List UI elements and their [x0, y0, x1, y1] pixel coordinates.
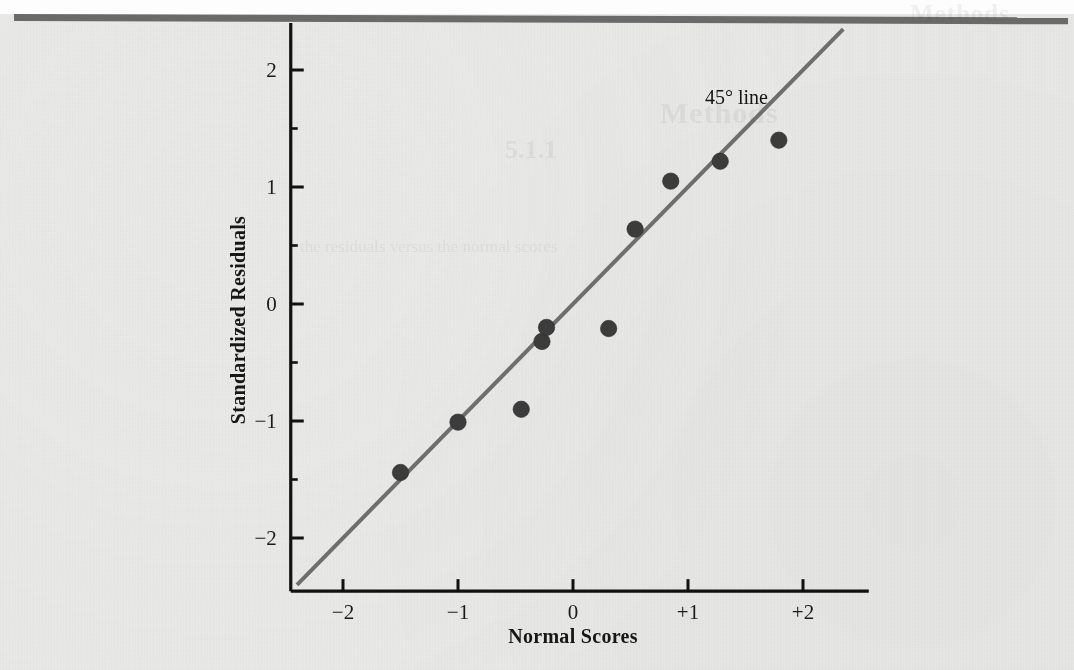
scatter-point [450, 414, 466, 430]
y-axis-tick-label: −2 [254, 526, 276, 551]
scatter-point [663, 173, 679, 189]
y-axis-title: Standardized Residuals [227, 216, 250, 424]
scatter-point [712, 153, 728, 169]
y-axis-tick-label: −1 [254, 409, 276, 434]
x-axis-tick-label: −2 [332, 600, 354, 625]
x-axis-tick-label: −1 [447, 600, 469, 625]
figure-page: Methods Methods 5.1.1 the residuals vers… [0, 0, 1074, 670]
reference-line-45-degree [297, 29, 843, 585]
y-axis-tick-label: 2 [266, 58, 277, 83]
reference-line-layer [297, 29, 843, 585]
x-axis-tick-label: +1 [677, 600, 699, 625]
normal-probability-plot [0, 0, 1074, 670]
y-axis-tick-label: 1 [266, 175, 277, 200]
axes-layer [291, 23, 869, 591]
x-axis-tick-label: 0 [568, 600, 579, 625]
scatter-point [538, 319, 554, 335]
scatter-point [600, 320, 616, 336]
scatter-point [627, 221, 643, 237]
annotation-45-degree-line: 45° line [705, 86, 768, 109]
scatter-point [513, 401, 529, 417]
scatter-point [392, 464, 408, 480]
x-axis-title: Normal Scores [508, 625, 638, 648]
y-axis-tick-label: 0 [266, 292, 277, 317]
scatter-point [771, 132, 787, 148]
x-axis-tick-label: +2 [792, 600, 814, 625]
